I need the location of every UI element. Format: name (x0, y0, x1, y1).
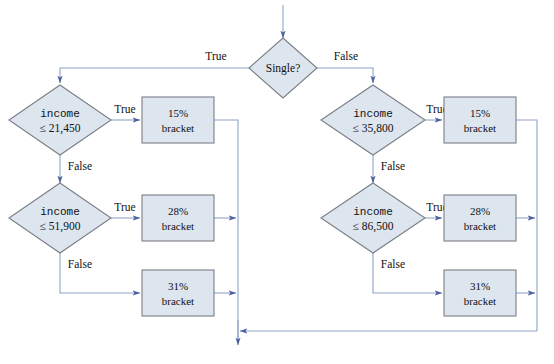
edge-single-true (60, 68, 249, 83)
edge-single-false (317, 68, 373, 83)
process-right-28-bracket[interactable]: 28% bracket (444, 195, 516, 241)
decision-right-income-35800[interactable]: income ≤ 35,800 (321, 85, 425, 155)
process-right-28-line1: 28% (470, 205, 490, 217)
decision-left-income-21450[interactable]: income ≤ 21,450 (9, 85, 111, 155)
decision-left-d1-line2: ≤ 21,450 (40, 122, 81, 135)
process-right-15-bracket[interactable]: 15% bracket (444, 97, 516, 143)
process-left-15-line2: bracket (162, 122, 194, 134)
decision-left-d2-line1: income (40, 206, 80, 218)
process-left-31-bracket[interactable]: 31% bracket (142, 270, 214, 316)
process-left-31-line1: 31% (168, 280, 188, 292)
process-left-15-bracket[interactable]: 15% bracket (142, 97, 214, 143)
decision-left-d2-line2: ≤ 51,900 (40, 220, 81, 233)
edge-label-right-d1-false: False (381, 160, 405, 172)
decision-single[interactable]: Single? (249, 38, 317, 98)
decision-left-d1-line1: income (40, 108, 80, 120)
decision-left-income-51900[interactable]: income ≤ 51,900 (9, 183, 111, 253)
edge-left-box15-collector (214, 120, 238, 343)
node-layer: Single? income ≤ 21,450 income ≤ 51,900 … (9, 38, 516, 316)
edge-label-right-d2-false: False (381, 258, 405, 270)
decision-right-d2-line1: income (353, 206, 393, 218)
process-right-28-line2: bracket (464, 220, 496, 232)
process-right-31-bracket[interactable]: 31% bracket (444, 270, 516, 316)
process-right-15-line1: 15% (470, 107, 490, 119)
process-right-31-line2: bracket (464, 295, 496, 307)
decision-right-d2-line2: ≤ 86,500 (353, 220, 394, 233)
edge-label-left-d2-false: False (68, 258, 92, 270)
decision-right-d1-line2: ≤ 35,800 (353, 122, 394, 135)
process-left-31-line2: bracket (162, 295, 194, 307)
decision-single-label: Single? (266, 62, 301, 75)
flowchart-svg: True False True False True False True Fa… (0, 0, 554, 364)
edge-right-box15-collector (516, 120, 537, 331)
flowchart-canvas: True False True False True False True Fa… (0, 0, 554, 364)
decision-right-income-86500[interactable]: income ≤ 86,500 (321, 183, 425, 253)
process-left-28-bracket[interactable]: 28% bracket (142, 195, 214, 241)
process-right-31-line1: 31% (470, 280, 490, 292)
edge-label-single-false: False (334, 50, 358, 62)
edge-label-left-d1-true: True (114, 103, 135, 115)
process-right-15-line2: bracket (464, 122, 496, 134)
process-left-15-line1: 15% (168, 107, 188, 119)
edge-label-left-d2-true: True (114, 201, 135, 213)
process-left-28-line1: 28% (168, 205, 188, 217)
edge-label-left-d1-false: False (68, 160, 92, 172)
process-left-28-line2: bracket (162, 220, 194, 232)
decision-right-d1-line1: income (353, 108, 393, 120)
edge-label-single-true: True (205, 50, 226, 62)
